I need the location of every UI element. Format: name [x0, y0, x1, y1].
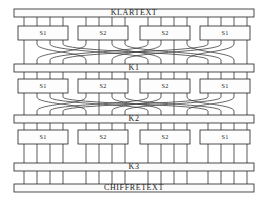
sbox-text: S1	[40, 133, 47, 140]
bar-text-k3: K3	[129, 162, 140, 171]
bar-text-k2: K2	[129, 114, 140, 123]
sbox-r3-4: S1	[200, 130, 250, 144]
sbox-group: S1S2S2S1S1S2S2S1S1S2S2S1	[18, 26, 250, 144]
sbox-text: S2	[100, 82, 107, 89]
wires-group	[24, 17, 247, 184]
sbox-r1-1: S1	[18, 26, 68, 40]
spn-cipher-diagram: KLARTEXTK1K2K3CHIFFRETEXT S1S2S2S1S1S2S2…	[0, 0, 268, 203]
sbox-text: S1	[40, 29, 47, 36]
bar-k2: K2	[14, 114, 254, 123]
sbox-r2-2: S2	[78, 79, 128, 93]
sbox-r3-1: S1	[18, 130, 68, 144]
sbox-r1-4: S1	[200, 26, 250, 40]
perm-2-cross-14-to-11	[187, 97, 234, 111]
bar-chiffretext: CHIFFRETEXT	[14, 183, 254, 192]
sbox-r3-2: S2	[78, 130, 128, 144]
sbox-text: S2	[100, 29, 107, 36]
perm-2-cross-4-to-1	[37, 97, 86, 111]
sbox-r3-3: S2	[140, 130, 190, 144]
bar-text-k1: K1	[129, 63, 140, 72]
bar-klartext: KLARTEXT	[14, 8, 254, 17]
perm-1-cross-4-to-1	[37, 44, 86, 60]
sbox-r2-4: S1	[200, 79, 250, 93]
diagram-canvas: KLARTEXTK1K2K3CHIFFRETEXT S1S2S2S1S1S2S2…	[0, 0, 268, 203]
sbox-text: S1	[222, 82, 229, 89]
sbox-text: S2	[162, 29, 169, 36]
sbox-r2-3: S2	[140, 79, 190, 93]
sbox-r1-2: S2	[78, 26, 128, 40]
sbox-r1-3: S2	[140, 26, 190, 40]
sbox-text: S1	[40, 82, 47, 89]
sbox-text: S2	[162, 133, 169, 140]
sbox-text: S2	[162, 82, 169, 89]
bar-k3: K3	[14, 162, 254, 171]
bar-text-chiffretext: CHIFFRETEXT	[104, 183, 164, 192]
bar-k1: K1	[14, 63, 254, 72]
perm-1-cross-14-to-11	[187, 44, 234, 60]
sbox-text: S1	[222, 29, 229, 36]
sbox-text: S2	[100, 133, 107, 140]
sbox-r2-1: S1	[18, 79, 68, 93]
bar-text-klartext: KLARTEXT	[111, 8, 158, 17]
sbox-text: S1	[222, 133, 229, 140]
